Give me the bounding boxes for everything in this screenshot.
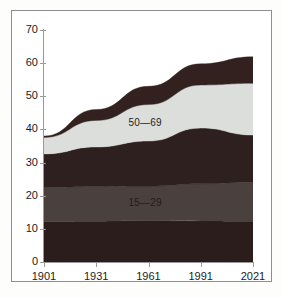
x-axis-tick-label: 1991 xyxy=(181,270,221,282)
x-axis-tick-label: 1961 xyxy=(129,270,169,282)
y-axis-labels: 706050403020100 xyxy=(6,0,38,298)
y-axis-tick-label: 20 xyxy=(12,190,38,201)
y-axis-tick-label: 50 xyxy=(12,90,38,101)
x-axis-tick xyxy=(253,262,254,267)
x-axis-tick-label: 2021 xyxy=(233,270,273,282)
band-label-15-29: 15—29 xyxy=(129,197,162,208)
y-axis-tick-label: 30 xyxy=(12,157,38,168)
x-axis-tick xyxy=(149,262,150,267)
y-axis-tick xyxy=(40,96,46,97)
y-axis-tick-label: 40 xyxy=(12,123,38,134)
y-axis-tick xyxy=(40,229,46,230)
chart-plot-svg xyxy=(44,30,253,262)
x-axis-tick-label: 1901 xyxy=(24,270,64,282)
x-axis-tick-label: 1931 xyxy=(76,270,116,282)
y-axis-tick xyxy=(40,262,46,263)
y-axis-tick xyxy=(40,163,46,164)
y-axis-line xyxy=(43,29,44,263)
x-axis-tick xyxy=(201,262,202,267)
x-axis-tick xyxy=(44,262,45,267)
band-label-50-69: 50—69 xyxy=(129,117,162,128)
area-band-0-14 xyxy=(44,221,253,262)
x-axis-tick xyxy=(96,262,97,267)
y-axis-tick xyxy=(40,196,46,197)
y-axis-tick xyxy=(40,63,46,64)
y-axis-tick-label: 60 xyxy=(12,57,38,68)
y-axis-tick xyxy=(40,30,46,31)
y-axis-tick-label: 10 xyxy=(12,223,38,234)
y-axis-tick-label: 70 xyxy=(12,24,38,35)
y-axis-tick-label: 0 xyxy=(12,256,38,267)
y-axis-tick xyxy=(40,129,46,130)
stacked-area-chart xyxy=(44,30,253,262)
